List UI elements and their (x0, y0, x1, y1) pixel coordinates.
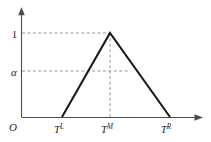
x-tick-mid-superscript: M (106, 123, 114, 131)
triangular-membership-function-figure: 1 α O TL TM TR (0, 0, 211, 142)
y-tick-label-one: 1 (12, 28, 18, 40)
x-tick-left-superscript: L (59, 123, 64, 131)
x-tick-right-superscript: R (166, 123, 172, 131)
y-tick-label-alpha: α (11, 66, 17, 78)
origin-label: O (9, 121, 17, 133)
chart-canvas: 1 α O TL TM TR (0, 0, 211, 142)
